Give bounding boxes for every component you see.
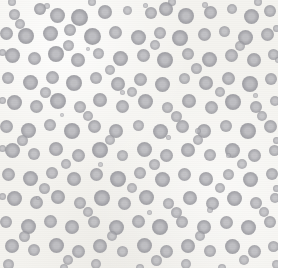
erythrocyte <box>259 207 269 217</box>
erythrocyte <box>28 244 40 256</box>
erythrocyte <box>116 100 129 113</box>
erythrocyte <box>0 193 6 200</box>
erythrocyte <box>0 120 13 133</box>
erythrocyte <box>8 0 16 6</box>
erythrocyte <box>204 245 216 257</box>
erythrocyte <box>149 159 160 170</box>
erythrocyte <box>133 120 144 131</box>
erythrocyte <box>171 207 182 218</box>
erythrocyte <box>49 142 63 156</box>
erythrocyte <box>248 149 261 162</box>
erythrocyte <box>204 149 216 161</box>
erythrocyte <box>17 135 28 146</box>
erythrocyte <box>117 246 128 257</box>
erythrocyte <box>226 153 231 158</box>
erythrocyte <box>131 30 146 45</box>
erythrocyte <box>63 40 74 51</box>
erythrocyte <box>154 27 166 39</box>
erythrocyte <box>179 73 190 84</box>
erythrocyte <box>66 75 82 91</box>
erythrocyte <box>160 245 173 258</box>
erythrocyte <box>195 231 205 241</box>
erythrocyte <box>168 0 176 6</box>
erythrocyte <box>118 197 131 210</box>
erythrocyte <box>160 149 173 162</box>
erythrocyte <box>93 239 107 253</box>
erythrocyte <box>155 172 170 187</box>
erythrocyte <box>264 216 276 228</box>
erythrocyte <box>191 63 202 74</box>
erythrocyte <box>235 41 245 51</box>
erythrocyte <box>9 9 20 20</box>
erythrocyte <box>91 259 101 268</box>
erythrocyte <box>88 0 96 6</box>
erythrocyte <box>40 87 51 98</box>
erythrocyte <box>113 51 128 66</box>
erythrocyte <box>248 245 261 258</box>
erythrocyte <box>107 231 117 241</box>
erythrocyte <box>3 259 14 269</box>
erythrocyte <box>152 219 168 235</box>
erythrocyte <box>44 119 56 131</box>
erythrocyte <box>227 191 242 206</box>
right-edge-margin <box>278 0 284 274</box>
erythrocyte <box>71 53 85 67</box>
erythrocyte <box>166 135 171 140</box>
erythrocyte <box>219 26 230 37</box>
blood-smear-field <box>0 0 278 268</box>
erythrocyte <box>207 207 213 213</box>
erythrocyte <box>137 142 152 157</box>
erythrocyte <box>269 145 279 156</box>
erythrocyte <box>43 26 58 41</box>
erythrocyte <box>0 216 12 228</box>
erythrocyte <box>60 113 64 117</box>
erythrocyte <box>5 48 20 63</box>
erythrocyte <box>199 76 213 90</box>
erythrocyte <box>264 120 277 133</box>
erythrocyte <box>120 90 125 95</box>
erythrocyte <box>105 135 115 145</box>
erythrocyte <box>147 210 152 215</box>
erythrocyte <box>46 167 58 179</box>
erythrocyte <box>150 40 160 50</box>
erythrocyte <box>19 231 30 242</box>
erythrocyte <box>193 135 203 145</box>
erythrocyte <box>36 196 40 200</box>
erythrocyte <box>127 87 137 97</box>
erythrocyte <box>183 191 197 205</box>
erythrocyte <box>48 46 64 62</box>
erythrocyte <box>7 191 22 206</box>
erythrocyte <box>139 190 154 205</box>
erythrocyte <box>92 142 108 158</box>
erythrocyte <box>181 143 195 157</box>
erythrocyte <box>23 171 38 186</box>
erythrocyte <box>65 220 79 234</box>
erythrocyte <box>223 169 234 180</box>
erythrocyte <box>46 71 59 84</box>
erythrocyte <box>44 3 50 9</box>
erythrocyte <box>64 24 76 36</box>
erythrocyte <box>143 3 148 8</box>
erythrocyte <box>215 87 225 97</box>
erythrocyte <box>178 8 194 24</box>
erythrocyte <box>18 28 34 44</box>
erythrocyte <box>225 239 240 254</box>
erythrocyte <box>181 239 195 253</box>
erythrocyte <box>49 238 64 253</box>
erythrocyte <box>181 259 191 268</box>
erythrocyte <box>266 168 278 180</box>
erythrocyte <box>61 159 71 169</box>
erythrocyte <box>15 19 25 29</box>
erythrocyte <box>244 9 259 24</box>
erythrocyte <box>171 111 182 122</box>
erythrocyte <box>110 171 126 187</box>
erythrocyte <box>243 172 258 187</box>
erythrocyte <box>176 216 188 228</box>
erythrocyte <box>261 28 274 41</box>
erythrocyte <box>172 30 188 46</box>
erythrocyte <box>254 0 262 6</box>
erythrocyte <box>268 241 279 252</box>
erythrocyte <box>205 101 218 114</box>
erythrocyte <box>72 149 85 162</box>
erythrocyte <box>2 72 14 84</box>
